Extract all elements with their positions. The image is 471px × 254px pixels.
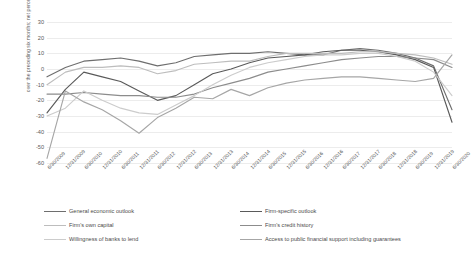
legend-label: Firm's own capital <box>69 222 114 229</box>
legend-label: Firm's credit history <box>265 222 313 229</box>
y-axis-tick-label: 0 <box>20 66 44 72</box>
chart-legend: General economic outlookFirm-specific ou… <box>44 208 444 250</box>
y-axis-tick-label: -60 <box>20 160 44 166</box>
legend-swatch <box>240 239 262 241</box>
series-line <box>47 55 452 158</box>
legend-item[interactable]: Firm's own capital <box>44 222 114 229</box>
legend-swatch <box>44 239 66 241</box>
y-axis-tick-label: -20 <box>20 97 44 103</box>
legend-swatch <box>240 225 262 227</box>
legend-item[interactable]: Firm's credit history <box>240 222 313 229</box>
y-axis-tick-label: 20 <box>20 35 44 41</box>
y-axis-tick-label: -10 <box>20 82 44 88</box>
y-axis-tick-label: 30 <box>20 19 44 25</box>
legend-swatch <box>44 225 66 227</box>
legend-swatch <box>240 211 262 213</box>
x-axis-tick-labels: 6/30/200912/31/20096/30/201012/31/20106/… <box>47 166 452 210</box>
legend-item[interactable]: Access to public financial support inclu… <box>240 236 401 243</box>
legend-swatch <box>44 211 66 213</box>
legend-item[interactable]: Willingness of banks to lend <box>44 236 138 243</box>
y-axis-tick-labels: 3020100-10-20-30-40-50-60 <box>18 22 44 163</box>
series-lines <box>47 22 452 163</box>
legend-item[interactable]: Firm-specific outlook <box>240 208 316 215</box>
legend-label: General economic outlook <box>69 208 134 215</box>
legend-item[interactable]: General economic outlook <box>44 208 134 215</box>
y-axis-tick-label: -30 <box>20 113 44 119</box>
y-axis-tick-label: -50 <box>20 144 44 150</box>
plot-area <box>47 22 452 163</box>
legend-label: Access to public financial support inclu… <box>265 236 401 243</box>
y-axis-tick-label: -40 <box>20 129 44 135</box>
y-axis-tick-label: 10 <box>20 50 44 56</box>
legend-label: Firm-specific outlook <box>265 208 316 215</box>
legend-label: Willingness of banks to lend <box>69 236 138 243</box>
